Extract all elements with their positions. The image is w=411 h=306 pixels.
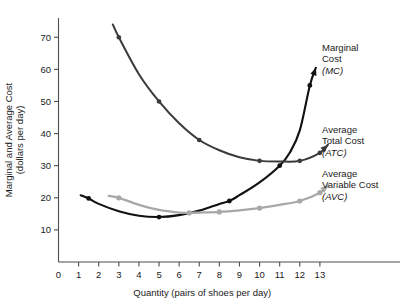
data-point-atc bbox=[197, 138, 202, 143]
x-tick-label: 0 bbox=[56, 269, 61, 280]
series-label-average-variable-cost: Average Variable Cost (AVC) bbox=[322, 168, 378, 202]
data-point-atc bbox=[157, 99, 162, 104]
data-point-avc bbox=[187, 210, 192, 215]
x-tick-label: 11 bbox=[275, 269, 285, 280]
x-tick-label: 2 bbox=[96, 269, 101, 280]
y-tick-label: 30 bbox=[40, 160, 51, 171]
data-point-mc bbox=[157, 215, 162, 220]
data-point-atc bbox=[297, 159, 302, 164]
data-point-mc bbox=[307, 83, 312, 88]
x-tick-label: 6 bbox=[176, 269, 181, 280]
y-tick-label: 70 bbox=[40, 32, 51, 43]
series-label-avc-abbr: (AVC) bbox=[322, 191, 378, 202]
axis-labels: Quantity (pairs of shoes per day)Margina… bbox=[3, 82, 271, 298]
series-label-mc-line1: Marginal bbox=[322, 42, 358, 53]
series-label-average-total-cost: Average Total Cost (ATC) bbox=[322, 124, 364, 158]
data-point-avc bbox=[116, 195, 121, 200]
data-point-avc bbox=[297, 198, 302, 203]
data-point-atc bbox=[117, 35, 122, 40]
x-axis-title: Quantity (pairs of shoes per day) bbox=[133, 287, 271, 298]
x-tick-label: 5 bbox=[156, 269, 161, 280]
data-point-avc bbox=[257, 205, 262, 210]
series-label-marginal-cost: Marginal Cost (MC) bbox=[322, 42, 358, 76]
cost-curves-figure: 10203040506070012345678910111213 Quantit… bbox=[0, 0, 411, 306]
y-axis-title-line1: Marginal and Average Cost bbox=[3, 82, 14, 197]
y-axis-title-line2: (dollars per day) bbox=[14, 106, 25, 175]
x-tick-label: 1 bbox=[76, 269, 81, 280]
series-label-atc-abbr: (ATC) bbox=[322, 147, 364, 158]
curve-series bbox=[81, 24, 328, 219]
series-label-mc-abbr: (MC) bbox=[322, 65, 358, 76]
x-tick-label: 13 bbox=[315, 269, 326, 280]
data-point-mc bbox=[277, 163, 282, 168]
data-point-mc bbox=[227, 199, 232, 204]
x-tick-label: 12 bbox=[294, 269, 305, 280]
arrowhead-mc bbox=[310, 68, 316, 76]
series-label-avc-line1: Average bbox=[322, 168, 378, 179]
y-tick-label: 50 bbox=[40, 96, 51, 107]
data-point-atc bbox=[257, 159, 262, 164]
series-label-atc-line2: Total Cost bbox=[322, 135, 364, 146]
x-tick-label: 3 bbox=[116, 269, 121, 280]
curve-avc bbox=[109, 186, 328, 213]
x-tick-label: 9 bbox=[237, 269, 242, 280]
x-tick-label: 10 bbox=[254, 269, 265, 280]
y-tick-label: 60 bbox=[40, 64, 51, 75]
series-label-mc-line2: Cost bbox=[322, 53, 358, 64]
x-tick-label: 4 bbox=[136, 269, 141, 280]
x-tick-label: 7 bbox=[197, 269, 202, 280]
data-point-avc bbox=[217, 209, 222, 214]
y-tick-label: 20 bbox=[40, 192, 51, 203]
y-tick-label: 10 bbox=[40, 224, 51, 235]
series-label-atc-line1: Average bbox=[322, 124, 364, 135]
series-label-avc-line2: Variable Cost bbox=[322, 179, 378, 190]
curve-mc bbox=[81, 68, 316, 217]
x-tick-label: 8 bbox=[217, 269, 222, 280]
y-tick-label: 40 bbox=[40, 128, 51, 139]
y-axis-title: Marginal and Average Cost(dollars per da… bbox=[3, 82, 25, 197]
data-point-mc bbox=[86, 196, 91, 201]
